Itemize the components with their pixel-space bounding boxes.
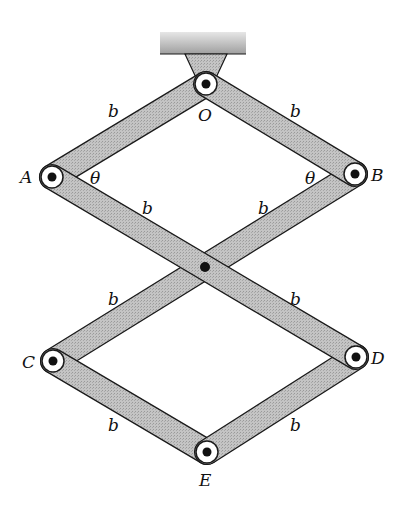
length-label-BC-upper: b [258, 198, 269, 218]
pin-E [196, 441, 218, 463]
linkage-diagram: O A B C D E b b b b b b b b θ θ [0, 0, 409, 514]
bar-C-E [53, 361, 207, 452]
label-O: O [198, 105, 212, 125]
label-B: B [370, 165, 384, 185]
angle-label-A: θ [90, 168, 100, 188]
ceiling-support [160, 32, 246, 54]
bar-O-B [206, 84, 355, 174]
pin-B [344, 163, 366, 185]
length-label-AD-lower: b [290, 289, 301, 309]
pin-A [41, 166, 63, 188]
pins [41, 73, 367, 463]
center-pin [200, 262, 210, 272]
label-D: D [370, 348, 385, 368]
pin-O [195, 73, 217, 95]
length-label-DE: b [290, 415, 301, 435]
length-label-CE: b [108, 415, 119, 435]
bar-D-E [207, 357, 356, 452]
label-C: C [22, 352, 35, 372]
label-A: A [18, 167, 32, 187]
pin-D [345, 346, 367, 368]
angle-label-B: θ [305, 168, 315, 188]
pin-C [42, 350, 64, 372]
length-label-OB: b [290, 101, 301, 121]
bar-O-A [52, 84, 206, 177]
length-label-AD-upper: b [142, 198, 153, 218]
label-E: E [198, 470, 212, 490]
length-label-OA: b [108, 101, 119, 121]
length-label-BC-lower: b [108, 289, 119, 309]
